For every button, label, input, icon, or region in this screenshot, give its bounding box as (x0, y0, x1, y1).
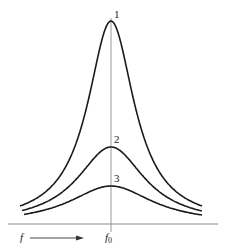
curve-label-3: 3 (114, 173, 120, 184)
resonance-diagram (0, 0, 230, 249)
curve-label-2: 2 (114, 134, 120, 145)
arrow-head-icon (76, 236, 84, 241)
curve-2 (22, 147, 202, 211)
curve-label-1: 1 (114, 9, 120, 20)
axis-label-f: f (20, 232, 23, 243)
center-frequency-label: f0 (105, 232, 112, 245)
